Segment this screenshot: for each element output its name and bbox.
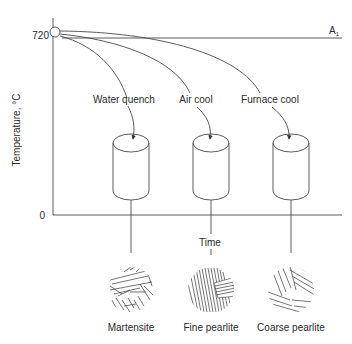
martensite-label: Martensite bbox=[108, 322, 155, 333]
coarse-pearlite-label: Coarse pearlite bbox=[257, 322, 325, 333]
start-point-icon bbox=[50, 27, 60, 37]
furnace-cool-label: Furnace cool bbox=[241, 94, 299, 105]
air-cool-label: Air cool bbox=[179, 94, 212, 105]
fine-pearlite-label: Fine pearlite bbox=[183, 322, 238, 333]
y-tick-720: 720 bbox=[32, 30, 49, 41]
y-axis-label: Temperature, °C bbox=[11, 94, 22, 167]
a1-label: A1 bbox=[329, 25, 340, 37]
cylinder-water-quench bbox=[113, 134, 149, 200]
cylinder-air-cool bbox=[193, 134, 229, 200]
fine-pearlite-microstructure-icon bbox=[187, 268, 236, 312]
cylinder-furnace-cool bbox=[273, 134, 309, 200]
water-quench-curve bbox=[60, 36, 127, 98]
water-quench-label: Water quench bbox=[93, 94, 155, 105]
heat-treatment-diagram: 720 0 Temperature, °C A1 Water quench Ai… bbox=[0, 0, 352, 344]
x-axis-label: Time bbox=[199, 237, 221, 248]
martensite-microstructure-icon bbox=[110, 264, 154, 312]
coarse-pearlite-microstructure-icon bbox=[268, 266, 316, 312]
y-tick-0: 0 bbox=[39, 210, 45, 221]
